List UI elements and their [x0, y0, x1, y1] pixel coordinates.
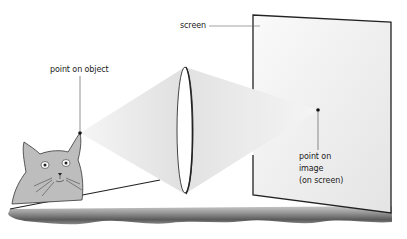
- cat-object: [12, 133, 83, 204]
- object-point-marker: [78, 131, 82, 135]
- light-cone-incoming: [80, 67, 185, 194]
- diagram-canvas: [0, 0, 407, 239]
- lens: [177, 67, 193, 194]
- label-point-on-image-3: (on screen): [299, 175, 343, 187]
- label-screen: screen: [180, 20, 206, 32]
- image-point-marker: [316, 108, 320, 112]
- label-point-on-image-2: image: [299, 163, 323, 175]
- label-point-on-object: point on object: [50, 64, 109, 76]
- optics-diagram: point on object screen point on image (o…: [0, 0, 407, 239]
- label-point-on-image-1: point on: [299, 151, 331, 163]
